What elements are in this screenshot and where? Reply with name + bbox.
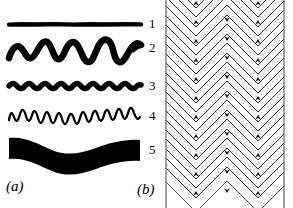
curve-1-straight-line bbox=[9, 24, 141, 25]
curve-4-thin-high-frequency-sinusoid bbox=[9, 108, 140, 124]
curve-2-thick-irregular-wave bbox=[9, 40, 141, 63]
panel-a-caption: (a) bbox=[6, 179, 24, 194]
curve-5-very-thick-undulating-band bbox=[9, 138, 140, 175]
panel-a: 1 2 3 4 5 bbox=[0, 0, 160, 208]
figure-container: 1 2 3 4 5 bbox=[0, 0, 293, 208]
panel-b-chevron-folds-drawing bbox=[160, 0, 293, 208]
chevron-layer-stack bbox=[160, 0, 293, 208]
panel-a-curves-drawing bbox=[0, 0, 160, 208]
panel-b bbox=[160, 0, 293, 208]
panel-b-caption: (b) bbox=[137, 182, 155, 197]
curve-3-thick-low-amplitude-wave bbox=[9, 84, 141, 89]
